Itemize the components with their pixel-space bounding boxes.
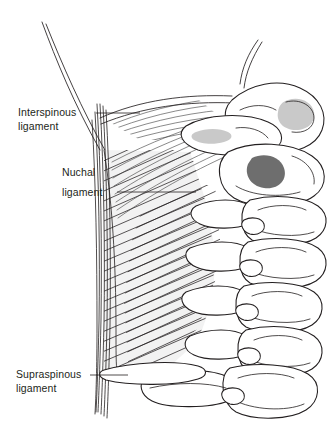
anatomy-figure: Interspinous ligament Nuchal ligament Su… <box>0 0 332 432</box>
label-nuchal-line1: Nuchal <box>62 166 95 178</box>
label-interspinous-ligament: Interspinous ligament <box>18 106 76 132</box>
label-nuchal-line2: ligament <box>62 186 103 198</box>
label-interspinous-line2: ligament <box>18 120 59 132</box>
label-interspinous-line1: Interspinous <box>18 106 76 118</box>
label-nuchal-ligament: Nuchal ligament <box>62 166 103 198</box>
label-supraspinous-ligament: Supraspinous ligament <box>16 368 81 394</box>
label-supraspinous-line2: ligament <box>16 382 57 394</box>
anatomy-illustration: Interspinous ligament Nuchal ligament Su… <box>0 0 332 432</box>
label-supraspinous-line1: Supraspinous <box>16 368 81 380</box>
